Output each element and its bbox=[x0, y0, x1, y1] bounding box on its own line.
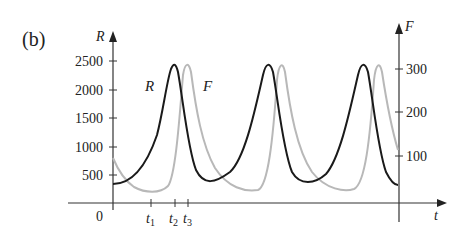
right-tick-label: 100 bbox=[406, 149, 427, 164]
left-tick-label: 1500 bbox=[75, 111, 103, 126]
left-axis-arrow-icon bbox=[109, 31, 117, 42]
right-axis-label: F bbox=[404, 19, 414, 34]
right-axis-arrow-icon bbox=[395, 23, 403, 34]
series-F-annotation: F bbox=[202, 78, 213, 94]
predator-prey-chart: (b) t R 500 1000 1500 2000 2500 F 100 20… bbox=[0, 0, 455, 236]
right-axis-ticks: 100 200 300 bbox=[395, 62, 427, 164]
x-axis-label: t bbox=[434, 208, 439, 223]
left-tick-label: 2500 bbox=[75, 54, 103, 69]
t1-label: t1 bbox=[146, 211, 155, 228]
right-tick-label: 300 bbox=[406, 62, 427, 77]
panel-label: (b) bbox=[22, 28, 45, 51]
left-tick-label: 500 bbox=[82, 168, 103, 183]
t3-label: t3 bbox=[183, 211, 192, 228]
left-tick-label: 2000 bbox=[75, 83, 103, 98]
origin-label: 0 bbox=[96, 209, 103, 224]
left-axis-label: R bbox=[95, 29, 105, 44]
series-R-line bbox=[113, 65, 398, 185]
t2-label: t2 bbox=[169, 211, 178, 228]
series-R-annotation: R bbox=[144, 78, 154, 94]
right-tick-label: 200 bbox=[406, 105, 427, 120]
x-axis-arrow-icon bbox=[437, 199, 447, 207]
left-axis-ticks: 500 1000 1500 2000 2500 bbox=[75, 54, 117, 183]
left-tick-label: 1000 bbox=[75, 140, 103, 155]
